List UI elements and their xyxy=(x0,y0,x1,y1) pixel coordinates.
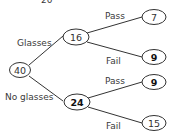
branch-label-glasses: Glasses xyxy=(17,38,52,48)
node-glasses-pass-value: 7 xyxy=(151,12,157,23)
node-glasses-value: 16 xyxy=(70,32,82,43)
node-glasses-fail-value: 9 xyxy=(151,52,158,63)
node-noglasses-fail: 15 xyxy=(142,116,166,131)
tree-diagram: 20 Glasses No glasses Pass Fail Pass Fai… xyxy=(0,0,173,137)
branch-label-no-glasses: No glasses xyxy=(5,92,54,102)
node-no-glasses-value: 24 xyxy=(70,97,84,108)
branch-label-noglasses-fail: Fail xyxy=(106,121,121,131)
branch-label-glasses-pass: Pass xyxy=(105,11,125,21)
node-root-value: 40 xyxy=(14,65,26,76)
node-glasses-fail: 9 xyxy=(142,50,166,65)
node-glasses-pass: 7 xyxy=(142,10,166,25)
edge-glasses-fail xyxy=(87,42,142,57)
node-no-glasses: 24 xyxy=(64,94,90,110)
branch-label-noglasses-pass: Pass xyxy=(105,76,125,86)
branch-label-glasses-fail: Fail xyxy=(106,56,121,66)
node-noglasses-pass-value: 9 xyxy=(151,77,158,88)
node-noglasses-fail-value: 15 xyxy=(148,118,160,129)
top-cut-text: 20 xyxy=(41,0,53,5)
node-noglasses-pass: 9 xyxy=(142,75,166,90)
node-glasses: 16 xyxy=(63,29,89,45)
node-root: 40 xyxy=(10,63,31,78)
